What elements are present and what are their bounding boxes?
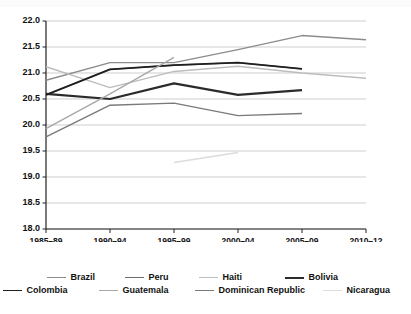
y-tick-label: 20.0	[22, 119, 40, 129]
legend-label: Colombia	[27, 285, 68, 296]
x-tick-label: 2010–12	[349, 236, 382, 242]
y-tick-label: 21.0	[22, 67, 40, 77]
y-tick-label: 18.0	[22, 223, 40, 233]
line-chart: 18.018.519.019.520.020.521.021.522.01985…	[0, 0, 411, 314]
y-tick-label: 22.0	[22, 15, 40, 25]
legend-item-haiti[interactable]: Haiti	[199, 272, 285, 283]
legend-swatch-line-icon	[199, 277, 218, 278]
series-line-guatemala	[46, 57, 174, 128]
y-tick-label: 18.5	[22, 197, 40, 207]
y-tick-label: 21.5	[22, 41, 40, 51]
top-edge-artifact	[0, 0, 411, 7]
x-tick-label: 2005–09	[285, 236, 318, 242]
x-tick-label: 2000–04	[221, 236, 254, 242]
legend-item-bolivia[interactable]: Bolivia	[285, 272, 365, 283]
x-tick-label: 1985–89	[29, 236, 62, 242]
legend-label: Brazil	[71, 272, 96, 283]
series-line-bolivia	[46, 83, 302, 99]
legend-swatch-line-icon	[3, 290, 22, 291]
legend-label: Dominican Republic	[219, 285, 306, 296]
plot-svg: 18.018.519.019.520.020.521.021.522.01985…	[0, 10, 411, 242]
legend-item-nicaragua[interactable]: Nicaragua	[323, 285, 409, 296]
legend-swatch-line-icon	[99, 290, 118, 291]
legend-item-peru[interactable]: Peru	[125, 272, 199, 283]
legend-swatch-line-icon	[195, 290, 214, 291]
legend-item-guatemala[interactable]: Guatemala	[99, 285, 195, 296]
legend-label: Bolivia	[309, 272, 339, 283]
legend-swatch-line-icon	[125, 277, 144, 278]
legend-item-colombia[interactable]: Colombia	[3, 285, 99, 296]
y-tick-label: 20.5	[22, 93, 40, 103]
legend-row-1: BrazilPeruHaitiBolivia	[47, 272, 365, 283]
legend-swatch-line-icon	[323, 290, 342, 291]
x-tick-label: 1990–94	[93, 236, 126, 242]
y-tick-label: 19.5	[22, 145, 40, 155]
legend-row-2: ColombiaGuatemalaDominican RepublicNicar…	[3, 285, 409, 296]
legend-label: Haiti	[223, 272, 243, 283]
chart-legend: BrazilPeruHaitiBolivia ColombiaGuatemala…	[0, 272, 411, 310]
legend-item-brazil[interactable]: Brazil	[47, 272, 125, 283]
y-tick-label: 19.0	[22, 171, 40, 181]
x-tick-label: 1995–99	[157, 236, 190, 242]
legend-swatch-line-icon	[47, 277, 66, 278]
series-line-brazil	[46, 36, 366, 81]
plot-area: 18.018.519.019.520.020.521.021.522.01985…	[0, 10, 411, 242]
legend-item-dominican-republic[interactable]: Dominican Republic	[195, 285, 323, 296]
series-line-nicaragua	[174, 153, 238, 163]
legend-label: Peru	[149, 272, 169, 283]
series-line-haiti	[46, 66, 366, 87]
legend-swatch-line-icon	[285, 277, 304, 279]
series-line-colombia	[46, 63, 302, 95]
legend-label: Nicaragua	[347, 285, 391, 296]
legend-label: Guatemala	[123, 285, 169, 296]
